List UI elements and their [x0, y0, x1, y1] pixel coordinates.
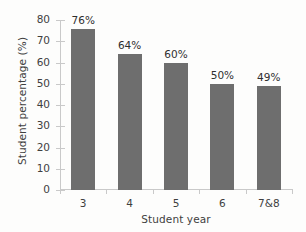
plot-area: 01020304050607080 76%64%60%50%49%: [60, 20, 292, 190]
y-axis-tick-label: 30: [37, 119, 50, 131]
bar-chart: Student percentage (%) 01020304050607080…: [0, 0, 306, 232]
x-axis-tick: [292, 189, 293, 194]
x-axis-tick-label: 6: [219, 197, 226, 209]
bar-group: 50%: [199, 20, 245, 190]
bar-group: 49%: [246, 20, 292, 190]
x-axis-tick-label: 5: [173, 197, 180, 209]
bar[interactable]: [71, 29, 95, 191]
bar-value-label: 49%: [257, 71, 280, 83]
bar-group: 76%: [60, 20, 106, 190]
bar[interactable]: [164, 63, 188, 191]
y-axis-tick-label: 80: [37, 13, 50, 25]
y-axis-tick-label: 20: [37, 141, 50, 153]
bar-group: 60%: [153, 20, 199, 190]
y-axis-title: Student percentage (%): [16, 16, 28, 186]
bar-value-label: 76%: [72, 14, 95, 26]
bars-layer: 76%64%60%50%49%: [60, 20, 292, 190]
y-axis-tick-label: 70: [37, 34, 50, 46]
x-axis-tick-label: 7&8: [258, 197, 280, 209]
y-axis-tick-label: 40: [37, 98, 50, 110]
bar-value-label: 50%: [211, 69, 234, 81]
y-axis-tick-label: 50: [37, 77, 50, 89]
x-axis-title: Student year: [60, 213, 292, 225]
bar[interactable]: [210, 84, 234, 190]
y-axis-tick-label: 60: [37, 56, 50, 68]
y-axis-tick-label: 10: [37, 162, 50, 174]
bar-group: 64%: [106, 20, 152, 190]
x-axis-tick-labels: 34567&8: [60, 197, 292, 213]
bar-value-label: 60%: [164, 48, 187, 60]
bar[interactable]: [118, 54, 142, 190]
x-axis-tick-label: 3: [80, 197, 87, 209]
y-axis-tick-label: 0: [43, 183, 50, 195]
bar[interactable]: [257, 86, 281, 190]
x-axis-tick-label: 4: [126, 197, 133, 209]
bar-value-label: 64%: [118, 39, 141, 51]
